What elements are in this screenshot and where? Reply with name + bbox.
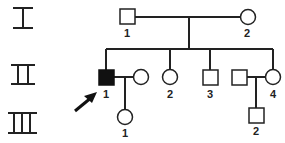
individual-III-1-female bbox=[118, 110, 133, 125]
pedigree-diagram: 1 2 1 2 3 4 1 2 bbox=[0, 0, 285, 143]
individual-I-1-male bbox=[120, 9, 135, 24]
label-II-2: 2 bbox=[167, 88, 173, 100]
generation-label-III bbox=[8, 113, 37, 133]
proband-arrow-icon bbox=[75, 92, 97, 111]
individual-II-3-male bbox=[203, 70, 218, 85]
individual-II-4-spouse-male bbox=[232, 70, 247, 85]
individual-II-1-affected-male bbox=[99, 70, 114, 85]
individual-III-2-male bbox=[249, 108, 264, 123]
label-III-2: 2 bbox=[253, 125, 259, 137]
individual-II-2-female bbox=[163, 70, 178, 85]
label-II-4: 4 bbox=[270, 88, 277, 100]
label-I-2: 2 bbox=[244, 27, 250, 39]
generation-label-I bbox=[13, 8, 33, 28]
label-I-1: 1 bbox=[124, 27, 130, 39]
generation-label-II bbox=[11, 65, 35, 84]
label-II-1: 1 bbox=[103, 88, 109, 100]
individual-I-2-female bbox=[241, 10, 256, 25]
label-III-1: 1 bbox=[122, 127, 128, 139]
individual-II-1-spouse-female bbox=[134, 70, 149, 85]
individual-II-4-female bbox=[266, 70, 281, 85]
label-II-3: 3 bbox=[207, 88, 213, 100]
